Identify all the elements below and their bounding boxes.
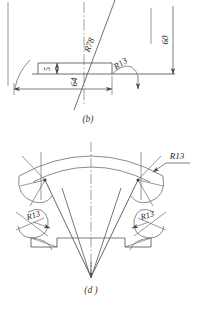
construction-ray-left-a [22,156,45,180]
dimension-label-60: 60 [160,35,170,45]
arc-left-r78 [15,60,30,88]
taper-line-right [91,180,138,277]
band-left-end-curve [19,176,52,203]
detail-ray-left-3 [33,222,50,228]
figure-d-caption: (d ) [84,285,97,296]
leader-pointer-r13-d-top [153,163,166,172]
band-inner-arc [33,167,150,182]
figure-b-caption: (b) [82,114,93,125]
drawing-sheet: 60 5 64 R78 [0,0,197,323]
taper-line-left [45,180,91,277]
dimension-label-64: 64 [69,77,79,87]
radius-line-r78 [74,0,115,110]
figure-d-group: R13 R13 R13 (d ) [16,142,190,296]
foot-right-diagonal [125,238,151,247]
technical-drawing-canvas: 60 5 64 R78 [0,0,197,323]
foot-left-diagonal [31,238,57,247]
taper-line-inner-left [62,188,89,272]
construction-ray-right-a [138,156,161,180]
dimension-label-r13-b: R13 [111,55,130,72]
taper-line-inner-right [93,188,121,272]
figure-b-group: 60 5 64 R78 [8,0,175,125]
dimension-label-r13-d-top: R13 [169,151,185,161]
construction-ray-right-b [138,180,163,186]
band-right-end-curve [131,176,164,203]
dimension-label-5: 5 [42,67,52,71]
